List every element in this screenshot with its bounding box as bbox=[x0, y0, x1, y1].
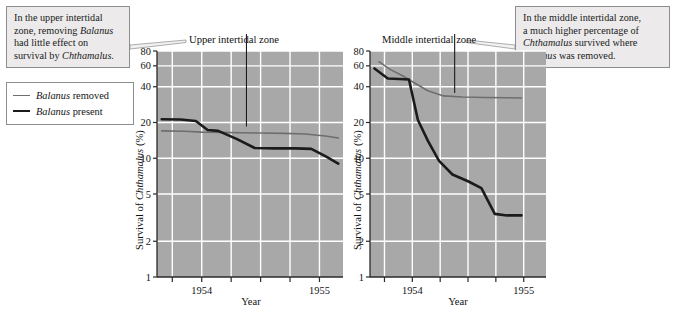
chart-title-middle: Middle intertidal zone bbox=[382, 34, 476, 45]
callout-right-line4a: was removed. bbox=[556, 50, 615, 61]
plot-area-middle: 125102040608019541955 bbox=[370, 51, 546, 277]
svg-text:5: 5 bbox=[359, 189, 364, 200]
svg-text:2: 2 bbox=[146, 236, 151, 247]
svg-text:40: 40 bbox=[354, 81, 364, 92]
chart-title-upper: Upper intertidal zone bbox=[189, 34, 279, 45]
chart-upper-intertidal-zone: Upper intertidal zone Survival of Chtham… bbox=[126, 0, 341, 319]
svg-text:5: 5 bbox=[146, 189, 151, 200]
svg-text:1955: 1955 bbox=[513, 285, 534, 296]
callout-left-line4b: . bbox=[111, 50, 114, 61]
legend-swatch-removed-icon bbox=[13, 95, 30, 96]
plot-svg-middle: 125102040608019541955 bbox=[370, 51, 546, 277]
callout-left-line1: In the upper intertidal bbox=[14, 12, 103, 23]
y-axis-label-upper: Survival of Chthamalus (%) bbox=[134, 130, 145, 250]
svg-text:60: 60 bbox=[354, 60, 364, 71]
callout-left-line2-italic: Balanus bbox=[80, 25, 113, 36]
plot-area-upper: 125102040608019541955 bbox=[157, 51, 343, 277]
legend-swatch-present-icon bbox=[13, 110, 30, 112]
svg-text:1955: 1955 bbox=[309, 285, 330, 296]
legend-item-balanus-present: Balanus present bbox=[13, 103, 127, 119]
legend-label-present: Balanus present bbox=[36, 106, 103, 117]
chart-middle-intertidal-zone: Middle intertidal zone Survival of Chtha… bbox=[346, 0, 546, 319]
svg-text:10: 10 bbox=[141, 153, 151, 164]
svg-text:60: 60 bbox=[141, 60, 151, 71]
x-axis-label-upper: Year bbox=[156, 296, 346, 307]
callout-left-line4a: survival by bbox=[14, 50, 62, 61]
svg-text:1: 1 bbox=[359, 272, 364, 283]
plot-svg-upper: 125102040608019541955 bbox=[157, 51, 343, 277]
svg-text:1: 1 bbox=[146, 272, 151, 283]
svg-text:1954: 1954 bbox=[191, 285, 213, 296]
callout-right-line3a: survived where bbox=[572, 37, 637, 48]
svg-text:2: 2 bbox=[359, 236, 364, 247]
legend-label-removed: Balanus removed bbox=[36, 90, 109, 101]
svg-text:80: 80 bbox=[354, 46, 364, 57]
figure-root: In the upper intertidal zone, removing B… bbox=[0, 0, 674, 319]
callout-left-line3: had little effect on bbox=[14, 37, 88, 48]
svg-text:20: 20 bbox=[141, 117, 151, 128]
callout-left-line4-italic: Chthamalus bbox=[62, 50, 111, 61]
svg-text:1954: 1954 bbox=[402, 285, 424, 296]
x-axis-label-middle: Year bbox=[368, 296, 548, 307]
svg-text:10: 10 bbox=[354, 153, 364, 164]
svg-text:40: 40 bbox=[141, 81, 151, 92]
legend-item-balanus-removed: Balanus removed bbox=[13, 87, 127, 103]
callout-left-line2a: zone, removing bbox=[14, 25, 80, 36]
svg-text:20: 20 bbox=[354, 117, 364, 128]
svg-text:80: 80 bbox=[141, 46, 151, 57]
legend: Balanus removed Balanus present bbox=[6, 82, 134, 125]
upper-zone-callout: In the upper intertidal zone, removing B… bbox=[6, 6, 130, 68]
